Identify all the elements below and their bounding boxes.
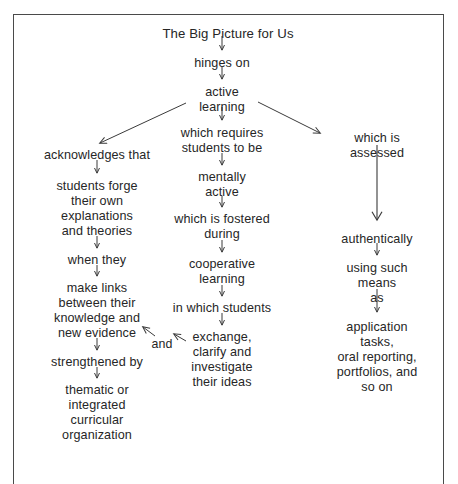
node-hinges-on: hinges on xyxy=(194,56,250,71)
node-which-is-fostered-during: which is fostered during xyxy=(174,212,270,242)
node-which-is-assessed: which is assessed xyxy=(337,131,418,161)
node-mentally-active: mentally active xyxy=(198,170,246,200)
node-assessment-examples: application tasks, oral reporting, portf… xyxy=(337,320,418,395)
node-thematic-curricular-organization: thematic or integrated curricular organi… xyxy=(62,383,132,443)
node-and-connector: and xyxy=(152,337,173,352)
node-strengthened-by: strengthened by xyxy=(51,355,143,370)
node-make-links: make links between their knowledge and n… xyxy=(54,281,140,341)
node-exchange-clarify-investigate: exchange, clarify and investigate their … xyxy=(191,330,252,390)
node-cooperative-learning: cooperative learning xyxy=(189,257,255,287)
node-which-requires-students-to-be: which requires students to be xyxy=(181,126,264,156)
node-authentically: authentically xyxy=(341,232,412,247)
node-when-they: when they xyxy=(68,253,126,268)
node-in-which-students: in which students xyxy=(173,301,271,316)
node-students-forge-explanations: students forge their own explanations an… xyxy=(56,179,137,239)
node-active-learning: active learning xyxy=(199,85,245,115)
node-using-such-means-as: using such means as xyxy=(337,261,418,306)
node-title: The Big Picture for Us xyxy=(162,26,293,41)
node-acknowledges-that: acknowledges that xyxy=(44,148,150,163)
